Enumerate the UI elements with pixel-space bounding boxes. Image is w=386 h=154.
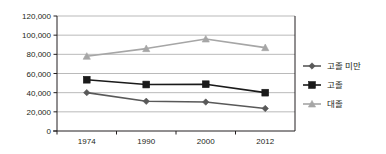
line-chart: 020,00040,00060,00080,000100,000120,000 … bbox=[0, 0, 386, 154]
y-tick-label: 120,000 bbox=[22, 12, 51, 21]
x-tick-label: 2012 bbox=[256, 137, 274, 146]
legend-label: 대졸 bbox=[327, 99, 343, 109]
legend-label: 고졸 bbox=[327, 80, 343, 90]
data-point-marker bbox=[202, 81, 209, 88]
x-tick-label: 2000 bbox=[197, 137, 215, 146]
data-point-marker bbox=[143, 81, 150, 88]
data-point-marker bbox=[83, 76, 90, 83]
chart-canvas: 020,00040,00060,00080,000100,000120,000 … bbox=[0, 0, 386, 154]
y-tick-label: 0 bbox=[47, 127, 52, 136]
y-tick-label: 60,000 bbox=[27, 70, 52, 79]
y-tick-label: 100,000 bbox=[22, 31, 51, 40]
legend-label: 고졸 미만 bbox=[327, 61, 361, 71]
x-tick-label: 1990 bbox=[137, 137, 155, 146]
x-tick-label: 1974 bbox=[78, 137, 96, 146]
square-marker-icon bbox=[309, 82, 316, 89]
y-tick-label: 40,000 bbox=[27, 89, 52, 98]
y-tick-label: 20,000 bbox=[27, 108, 52, 117]
data-point-marker bbox=[262, 89, 269, 96]
y-tick-label: 80,000 bbox=[27, 50, 52, 59]
